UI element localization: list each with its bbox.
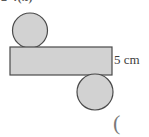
open-parenthesis: ( [113,112,120,134]
geometry-figure [0,0,149,137]
dimension-label-5cm: 5 cm [114,52,140,67]
figure-canvas: 2 4(x) 5 cm ( [0,0,149,137]
top-left-circle [13,13,48,48]
bottom-right-circle [77,74,113,110]
rectangle-bar [10,47,112,75]
